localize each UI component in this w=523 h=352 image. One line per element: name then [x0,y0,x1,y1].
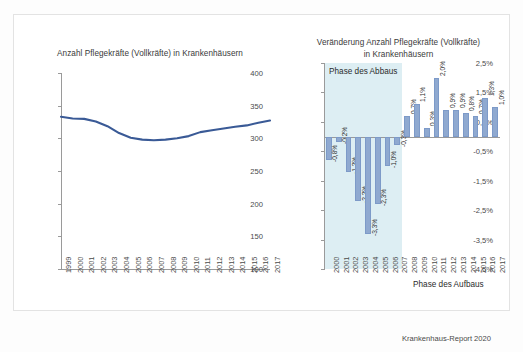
bar-chart-bar [404,116,410,137]
bar-chart-data-label: -3,3% [371,218,378,235]
figure-root: Anzahl Pflegekräfte (Vollkräfte) in Kran… [0,0,523,352]
bar-chart-y-tick [321,240,324,241]
line-chart-panel: Anzahl Pflegekräfte (Vollkräfte) in Kran… [14,15,286,312]
bar-chart-x-tick-label: 2016 [488,257,497,273]
bar-chart-y-tick [321,151,324,152]
phase-aufbau-label: Phase des Aufbaus [413,280,484,289]
line-chart-x-tick-label: 2017 [273,257,282,273]
bar-chart-x-tick-label: 2017 [498,257,507,273]
bar-chart-x-tick-label: 2002 [351,257,360,273]
bar-chart-y-tick-label: -2,5% [473,206,493,215]
bar-chart-y-tick [321,63,324,64]
bar-chart-title-line1: Veränderung Anzahl Pflegekräfte (Vollkrä… [286,37,511,49]
bar-chart-data-label: 0,8% [468,96,475,111]
bar-chart-x-tick-label: 2014 [469,257,478,273]
figure-frame: Anzahl Pflegekräfte (Vollkräfte) in Kran… [13,14,510,311]
bar-chart-data-label: -2,3% [380,189,387,206]
bar-chart-data-label: 0,9% [459,93,466,108]
bar-chart-data-label: -0,8% [331,145,338,162]
bar-chart-y-tick [321,210,324,211]
bar-chart-bar [434,78,440,137]
bar-chart-bar [473,116,479,137]
bar-chart-data-label: -1,0% [390,151,397,168]
bar-chart-bar [482,98,488,136]
bar-chart-x-tick-label: 2015 [479,257,488,273]
bar-chart-y-tick-label: -3,5% [473,235,493,244]
bar-chart-bar [424,128,430,137]
bar-chart-x-tick-label: 2005 [381,257,390,273]
bar-chart-x-tick-label: 2012 [449,257,458,273]
bar-chart-title: Veränderung Anzahl Pflegekräfte (Vollkrä… [286,37,511,60]
line-chart-title: Anzahl Pflegekräfte (Vollkräfte) in Kran… [14,48,286,60]
bar-chart-x-tick-label: 2007 [400,257,409,273]
bar-chart-y-tick-label: -1,5% [473,176,493,185]
bar-chart-bar [453,110,459,136]
bar-chart-panel: Veränderung Anzahl Pflegekräfte (Vollkrä… [286,15,511,312]
bar-chart-x-tick-label: 2010 [430,257,439,273]
bar-chart-data-label: 1,1% [419,87,426,102]
bar-chart-data-label: 1,3% [488,81,495,96]
bar-chart-x-tick-label: 2006 [391,257,400,273]
bar-chart-bar [443,110,449,136]
line-chart-series [61,73,270,269]
bar-chart-bar [463,113,469,137]
line-chart-y-tick [58,269,61,270]
bar-chart-y-tick [321,269,324,270]
bar-chart-x-tick-label: 2009 [420,257,429,273]
bar-chart-x-tick-label: 2003 [361,257,370,273]
bar-chart-data-label: 2,0% [439,61,446,76]
bar-chart-x-tick-label: 2011 [439,257,448,273]
bar-chart-data-label: 0,9% [449,93,456,108]
bar-chart-y-tick-label: 2,5% [476,59,493,68]
bar-chart-y-tick [321,92,324,93]
bar-chart-plot-area: -4,5%-3,5%-2,5%-1,5%-0,5%0,5%1,5%2,5% 20… [324,63,500,269]
bar-chart-bar [414,104,420,136]
bar-chart-x-tick-label: 2001 [342,257,351,273]
bar-chart-x-tick-label: 2013 [459,257,468,273]
phase-abbau-label: Phase des Abbaus [329,67,397,76]
bar-chart-y-tick [321,181,324,182]
bar-chart-y-tick [321,122,324,123]
bar-chart-data-label: 1,0% [498,90,505,105]
bar-chart-y-axis [324,63,325,270]
bar-chart-bar [492,107,498,136]
bar-chart-x-tick-label: 2000 [332,257,341,273]
line-chart-plot-area: 100150200250300350400 199920002001200220… [61,73,270,269]
bar-chart-y-tick-label: -0,5% [473,147,493,156]
source-note: Krankenhaus-Report 2020 [402,334,491,343]
bar-chart-x-tick-label: 2008 [410,257,419,273]
bar-chart-x-tick-label: 2004 [371,257,380,273]
